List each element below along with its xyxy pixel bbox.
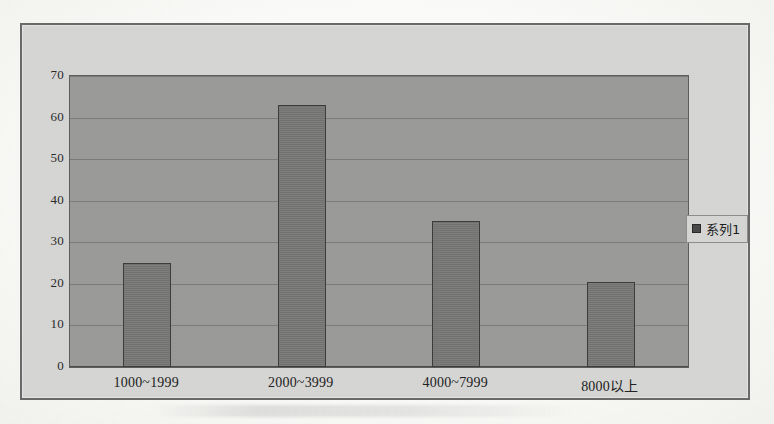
y-axis: 010203040506070	[30, 75, 64, 368]
y-axis-tick-label: 70	[30, 67, 64, 83]
x-axis-tick-label: 1000~1999	[114, 375, 179, 391]
x-axis: 1000~19992000~39994000~79998000以上	[69, 375, 689, 401]
x-axis-tick-label: 4000~7999	[423, 375, 488, 391]
legend-label: 系列1	[706, 219, 740, 238]
gridline-30	[70, 242, 688, 243]
bar-2000~3999	[278, 105, 326, 367]
gridline-40	[70, 201, 688, 202]
y-axis-tick-label: 60	[30, 109, 64, 125]
y-axis-tick-label: 20	[30, 275, 64, 291]
bar-8000以上	[587, 282, 635, 367]
chart-frame: 010203040506070 1000~19992000~39994000~7…	[20, 23, 750, 400]
chart-legend[interactable]: 系列1	[686, 215, 748, 243]
gridline-70	[70, 76, 688, 77]
y-axis-tick-label: 50	[30, 150, 64, 166]
x-axis-tick-label: 2000~3999	[268, 375, 333, 391]
y-axis-tick-label: 0	[30, 358, 64, 374]
plot-area	[69, 75, 689, 368]
x-axis-tick-label: 8000以上	[581, 375, 638, 395]
bar-4000~7999	[432, 221, 480, 367]
y-axis-tick-label: 10	[30, 316, 64, 332]
gridline-50	[70, 159, 688, 160]
y-axis-tick-label: 30	[30, 233, 64, 249]
bar-1000~1999	[123, 263, 171, 367]
y-axis-tick-label: 40	[30, 192, 64, 208]
gridline-60	[70, 118, 688, 119]
legend-swatch-icon	[692, 224, 701, 233]
